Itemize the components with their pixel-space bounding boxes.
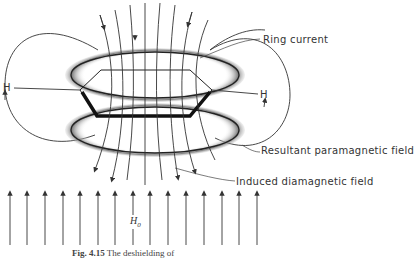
left-ch-bond (14, 88, 80, 90)
left-hydrogen-label: H (3, 82, 11, 93)
induced-diamagnetic-field-label: Induced diamagnetic field (236, 176, 374, 187)
ring-current-label: Ring current (263, 34, 328, 45)
resultant-paramagnetic-field-label: Resultant paramagnetic field (261, 145, 414, 156)
right-hydrogen-label: H (260, 89, 268, 100)
figure-caption: Fig. 4.15 The deshielding of (72, 248, 174, 258)
caption-text: The deshielding of (107, 248, 174, 258)
upper-ring-current (65, 48, 245, 102)
caption-number: Fig. 4.15 (72, 248, 105, 258)
applied-field-label: H0 (129, 215, 142, 229)
